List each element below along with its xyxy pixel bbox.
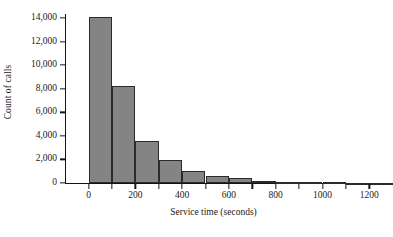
y-axis-tick-mark (60, 159, 66, 160)
y-axis-tick-label: 4,000 (36, 131, 57, 141)
x-axis-tick-mark (205, 184, 206, 189)
plot-area (65, 10, 383, 183)
y-axis-tick-label: 6,000 (36, 108, 57, 118)
y-axis-tick-labels: 02,0004,0006,0008,00010,00012,00014,000 (14, 0, 62, 190)
x-axis-tick-mark (111, 184, 112, 189)
x-axis-tick-mark (88, 184, 89, 189)
y-axis-tick-mark (60, 64, 66, 65)
x-axis-title: Service time (seconds) (0, 207, 389, 217)
histogram-bar (323, 182, 346, 184)
x-axis-tick-label: 200 (128, 191, 142, 201)
histogram-bar (369, 183, 392, 185)
y-axis-tick-label: 12,000 (31, 37, 57, 47)
y-axis-tick-label: 10,000 (31, 60, 57, 70)
x-axis-tick-mark (369, 184, 370, 189)
x-axis-tick-mark (228, 184, 229, 189)
y-axis-tick-label: 8,000 (36, 84, 57, 94)
x-axis-tick-label: 600 (222, 191, 236, 201)
histogram-bar (182, 171, 205, 183)
x-axis-tick-label: 1200 (360, 191, 379, 201)
x-axis-title-text: Service time (seconds) (132, 207, 257, 217)
x-axis-tick-mark (252, 184, 253, 189)
x-axis-tick-mark (158, 184, 159, 189)
histogram-bar (112, 86, 135, 183)
histogram-bar (135, 141, 158, 183)
y-axis-title-text: Count of calls (3, 64, 13, 119)
y-axis-tick-mark (60, 112, 66, 113)
x-axis-tick-mark (275, 184, 276, 189)
histogram-bar (346, 183, 369, 185)
x-axis-tick-label: 0 (86, 191, 91, 201)
y-axis-tick-label: 0 (52, 178, 57, 188)
y-axis-tick-label: 14,000 (31, 13, 57, 23)
histogram-bar (159, 160, 182, 183)
y-axis-tick-mark (60, 135, 66, 136)
x-axis-tick-label: 400 (175, 191, 189, 201)
y-axis-tick-mark (60, 17, 66, 18)
histogram-bar (252, 181, 275, 183)
x-axis-tick-label: 1000 (313, 191, 332, 201)
y-axis-tick-mark (60, 88, 66, 89)
histogram-bar (276, 182, 299, 184)
x-axis-tick-mark (298, 184, 299, 189)
x-axis-tick-mark (345, 184, 346, 189)
x-axis-tick-mark (322, 184, 323, 189)
y-axis-tick-mark (60, 41, 66, 42)
histogram-bar (89, 17, 112, 183)
histogram-bar (299, 182, 322, 184)
histogram-bar (229, 178, 252, 183)
histogram-bar (206, 176, 229, 183)
y-axis-tick-label: 2,000 (36, 155, 57, 165)
x-axis-tick-mark (135, 184, 136, 189)
x-axis-tick-label: 800 (269, 191, 283, 201)
x-axis-tick-mark (181, 184, 182, 189)
y-axis-tick-mark (60, 182, 66, 183)
